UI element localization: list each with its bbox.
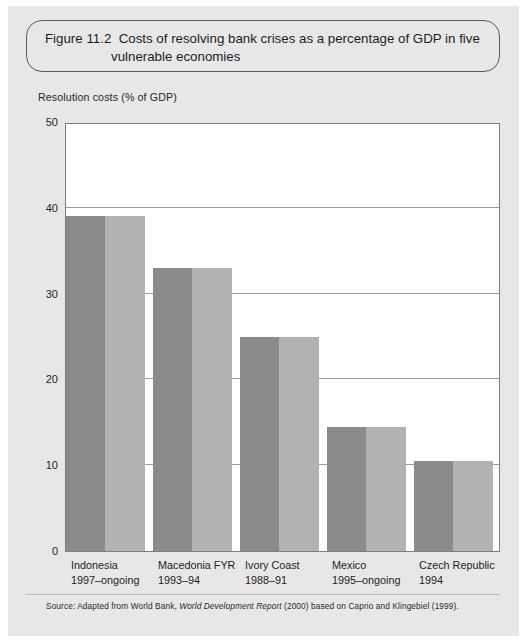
bar-dark-face (240, 337, 279, 552)
bar-light-face (279, 337, 318, 552)
bar (240, 337, 319, 552)
category-period: 1997–ongoing (71, 573, 139, 588)
y-tick-label: 0 (52, 545, 58, 557)
bar-dark-face (414, 461, 453, 551)
y-tick-label: 10 (46, 459, 58, 471)
category-period: 1995–ongoing (332, 573, 400, 588)
category-period: 1993–94 (158, 573, 235, 588)
category-name: Ivory Coast (245, 558, 300, 573)
y-tick-label: 30 (46, 288, 58, 300)
bar (66, 216, 145, 551)
bar-light-face (366, 427, 405, 551)
bars (66, 124, 499, 551)
page-title: Figure 11.2 Costs of resolving bank cris… (45, 30, 485, 66)
x-axis-category-labels: Indonesia1997–ongoingMacedonia FYR1993–9… (65, 558, 500, 592)
bar (414, 461, 493, 551)
source-note: Source: Adapted from World Bank, World D… (46, 601, 459, 611)
category-name: Czech Republic (419, 558, 495, 573)
figure-number: Figure 11.2 (45, 31, 111, 46)
y-axis-title: Resolution costs (% of GDP) (38, 91, 177, 103)
figure-card: Figure 11.2 Costs of resolving bank cris… (8, 6, 519, 636)
figure-caption-line-1: Costs of resolving bank crises as a perc… (119, 31, 480, 46)
y-tick-label: 40 (46, 202, 58, 214)
bar-dark-face (153, 268, 192, 551)
bar-light-face (192, 268, 231, 551)
figure-caption-line-2: vulnerable economies (111, 48, 485, 66)
category-name: Macedonia FYR (158, 558, 235, 573)
category-period: 1988–91 (245, 573, 300, 588)
bar-dark-face (66, 216, 105, 551)
source-publication-title: World Development Report (179, 601, 281, 611)
x-axis-category-label: Indonesia1997–ongoing (71, 558, 139, 587)
source-divider (26, 594, 500, 595)
x-axis-category-label: Mexico1995–ongoing (332, 558, 400, 587)
figure-title-box: Figure 11.2 Costs of resolving bank cris… (26, 20, 500, 72)
bar (153, 268, 232, 551)
y-tick-label: 50 (46, 116, 58, 128)
bar (327, 427, 406, 551)
x-axis-category-label: Macedonia FYR1993–94 (158, 558, 235, 587)
category-name: Mexico (332, 558, 400, 573)
x-axis-category-label: Czech Republic1994 (419, 558, 495, 587)
y-tick-label: 20 (46, 373, 58, 385)
bar-dark-face (327, 427, 366, 551)
category-name: Indonesia (71, 558, 139, 573)
x-axis-category-label: Ivory Coast1988–91 (245, 558, 300, 587)
bar-light-face (105, 216, 144, 551)
chart-plot-area: 01020304050 (65, 123, 500, 552)
category-period: 1994 (419, 573, 495, 588)
bar-light-face (453, 461, 492, 551)
